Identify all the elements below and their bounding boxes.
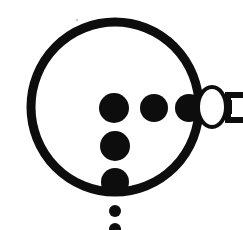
dot-col-3 xyxy=(101,168,129,196)
figure-canvas xyxy=(0,0,243,230)
dot-row-1 xyxy=(99,93,129,123)
dot-row-2 xyxy=(140,94,168,122)
dot-col-4 xyxy=(109,205,121,217)
diagram-svg xyxy=(0,0,243,230)
dot-col-2 xyxy=(100,131,130,161)
stray-speck xyxy=(76,19,78,21)
terminal-ellipse xyxy=(198,87,226,127)
